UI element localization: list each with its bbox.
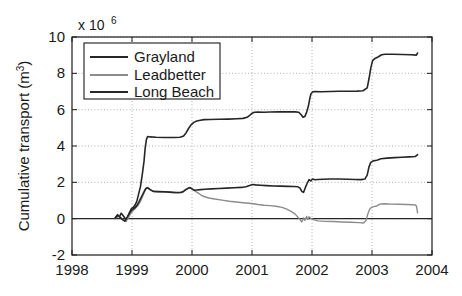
x-tick-label: 1998 — [55, 261, 88, 278]
y-tick-label: 4 — [57, 137, 65, 154]
y-tick-label: 10 — [48, 28, 65, 45]
cumulative-transport-chart: -20246810 1998199920002001200220032004 x… — [0, 0, 462, 296]
x-tick-label: 2002 — [295, 261, 328, 278]
legend-label-long-beach: Long Beach — [134, 83, 214, 100]
x-tick-label: 2003 — [355, 261, 388, 278]
x-tick-label: 2000 — [175, 261, 208, 278]
y-tick-label: 0 — [57, 210, 65, 227]
y-tick-label: 8 — [57, 64, 65, 81]
svg-text:Cumulative transport (m3): Cumulative transport (m3) — [15, 61, 32, 232]
legend-label-leadbetter: Leadbetter — [134, 66, 206, 83]
y-tick-label: 6 — [57, 101, 65, 118]
y-axis-label-main: Cumulative transport (m — [15, 71, 32, 231]
exponent-prefix: x 10 — [78, 17, 105, 33]
legend-label-grayland: Grayland — [134, 48, 195, 65]
y-axis-label: Cumulative transport (m3) — [15, 61, 32, 232]
x-tick-label: 2004 — [415, 261, 448, 278]
x-tick-label: 2001 — [235, 261, 268, 278]
x-tick-label: 1999 — [115, 261, 148, 278]
chart-figure: -20246810 1998199920002001200220032004 x… — [0, 0, 462, 296]
chart-legend: Grayland Leadbetter Long Beach — [84, 43, 220, 100]
y-tick-label: 2 — [57, 173, 65, 190]
y-axis-label-suffix: ) — [15, 61, 32, 66]
exponent-power: 6 — [111, 15, 117, 26]
